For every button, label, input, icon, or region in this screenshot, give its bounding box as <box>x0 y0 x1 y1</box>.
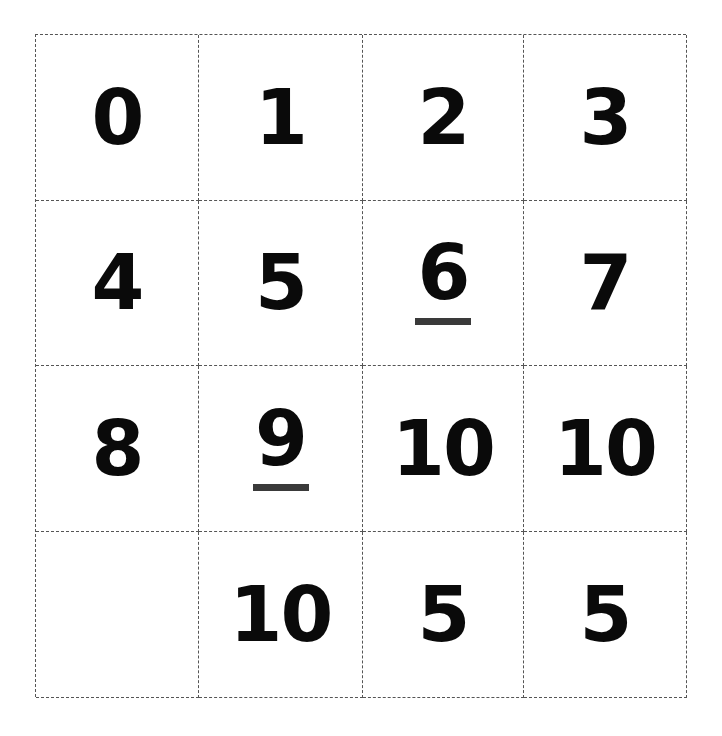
card-number: 0 <box>92 80 143 156</box>
card-10[interactable]: 10 <box>363 366 524 532</box>
card-number: 2 <box>418 80 469 156</box>
card-number: 3 <box>580 80 631 156</box>
card-number: 7 <box>580 245 631 321</box>
card-5[interactable]: 5 <box>199 201 363 366</box>
card-1[interactable]: 1 <box>199 35 363 201</box>
card-0[interactable]: 0 <box>36 35 199 201</box>
card-2[interactable]: 2 <box>363 35 524 201</box>
card-number: 10 <box>392 411 494 487</box>
card-number: 6 <box>418 235 469 311</box>
card-7[interactable]: 7 <box>524 201 687 366</box>
card-14[interactable]: 5 <box>363 532 524 698</box>
card-number: 5 <box>418 577 469 653</box>
card-number: 4 <box>92 245 143 321</box>
card-13[interactable]: 10 <box>199 532 363 698</box>
card-number: 8 <box>92 411 143 487</box>
card-empty[interactable] <box>36 532 199 698</box>
card-6[interactable]: 6 <box>363 201 524 366</box>
number-card-grid: 0 1 2 3 4 5 6 7 8 9 10 10 10 5 5 <box>35 34 686 697</box>
card-9[interactable]: 9 <box>199 366 363 532</box>
card-number: 9 <box>255 401 306 477</box>
card-number: 5 <box>255 245 306 321</box>
card-8[interactable]: 8 <box>36 366 199 532</box>
card-4[interactable]: 4 <box>36 201 199 366</box>
card-number: 1 <box>255 80 306 156</box>
orientation-underline <box>253 484 309 491</box>
card-11[interactable]: 10 <box>524 366 687 532</box>
card-number: 10 <box>230 577 332 653</box>
orientation-underline <box>415 318 471 325</box>
card-15[interactable]: 5 <box>524 532 687 698</box>
card-3[interactable]: 3 <box>524 35 687 201</box>
card-number: 10 <box>554 411 656 487</box>
card-number: 5 <box>580 577 631 653</box>
